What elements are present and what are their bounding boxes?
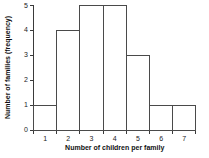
y-tick-label-1: 1 (24, 101, 28, 108)
x-tick-label-2: 2 (66, 135, 70, 142)
y-tick-label-5: 5 (24, 2, 28, 9)
y-tick-label-3: 3 (24, 51, 28, 58)
y-axis-title: Number of families (frequency) (4, 16, 12, 119)
x-axis-title: Number of children per family (65, 144, 164, 152)
x-tick-label-1: 1 (43, 135, 47, 142)
x-tick-label-6: 6 (159, 135, 163, 142)
x-tick-label-4: 4 (113, 135, 117, 142)
chart-background (0, 0, 209, 158)
y-tick-label-0: 0 (24, 126, 28, 133)
x-tick-label-7: 7 (182, 135, 186, 142)
x-tick-label-5: 5 (136, 135, 140, 142)
y-tick-label-2: 2 (24, 76, 28, 83)
x-tick-label-3: 3 (90, 135, 94, 142)
histogram-figure: 0 1 2 3 4 5 Number of families (frequenc… (0, 0, 209, 158)
y-tick-label-4: 4 (24, 26, 28, 33)
histogram-chart: 0 1 2 3 4 5 Number of families (frequenc… (0, 0, 209, 158)
